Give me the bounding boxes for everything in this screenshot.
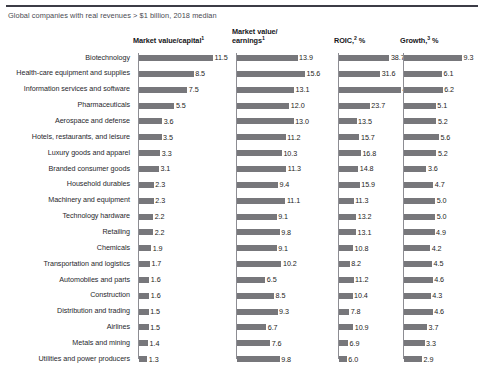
bar-value-label: 12.0 (291, 101, 305, 110)
category-label: Pharmaceuticals (77, 100, 130, 109)
bar-value-label: 3.3 (426, 339, 436, 348)
bar-value-label: 7.5 (189, 85, 199, 94)
exhibit-container: Global companies with real revenues > $1… (0, 0, 484, 375)
bar-value-label: 8.5 (276, 291, 286, 300)
category-label: Information services and software (24, 84, 130, 93)
bar (139, 71, 194, 77)
bar (237, 198, 285, 204)
category-label: Hotels, restaurants, and leisure (32, 132, 130, 141)
bar-value-label: 1.6 (151, 275, 161, 284)
column-header-text: ROIC, (334, 36, 354, 45)
bar (139, 182, 154, 188)
bar-value-label: 4.2 (432, 244, 442, 253)
bar-value-label: 1.5 (150, 307, 160, 316)
bar-value-label: 9.8 (281, 355, 291, 364)
bar (339, 166, 358, 172)
bar (237, 118, 294, 124)
bar-value-label: 9.8 (281, 228, 291, 237)
chart-panel-market-value-earnings: 13.915.613.112.013.011.210.311.39.411.19… (236, 53, 338, 363)
bar (404, 277, 433, 283)
bar (237, 277, 265, 283)
bar (237, 245, 277, 251)
bar (139, 245, 151, 251)
bar-value-label: 10.2 (283, 259, 297, 268)
category-label: Automobiles and parts (59, 275, 130, 284)
bar-value-label: 6.2 (444, 85, 454, 94)
category-label: Airlines (107, 322, 130, 331)
bar-value-label: 5.5 (176, 101, 186, 110)
top-divider-rule (6, 5, 478, 7)
bar (339, 356, 347, 362)
bar-value-label: 11.1 (287, 196, 300, 205)
column-header-roic: ROIC,2 % (334, 37, 365, 46)
bar-value-label: 5.6 (440, 133, 450, 142)
bar-value-label: 10.4 (354, 291, 368, 300)
bar (237, 261, 281, 267)
bar-value-label: 10.9 (355, 323, 369, 332)
bar-value-label: 15.6 (307, 69, 321, 78)
bar (237, 214, 277, 220)
bar-value-label: 13.0 (295, 117, 309, 126)
bar (404, 229, 435, 235)
column-header-text: Market value/capital (133, 36, 201, 45)
column-header-unit: % (430, 36, 438, 45)
category-label: Metals and mining (72, 338, 130, 347)
bar-value-label: 6.9 (349, 339, 359, 348)
bar-value-label: 7.8 (351, 307, 361, 316)
bar-value-label: 3.3 (162, 149, 172, 158)
category-label: Health-care equipment and supplies (16, 68, 130, 77)
bar (404, 293, 431, 299)
category-label: Retailing (102, 227, 130, 236)
bar (339, 118, 357, 124)
category-label: Household durables (67, 179, 130, 188)
bar (139, 324, 149, 330)
bar-value-label: 5.0 (437, 212, 447, 221)
bar (237, 309, 278, 315)
bar (237, 71, 305, 77)
bar (404, 134, 439, 140)
bar (404, 324, 427, 330)
bar (139, 340, 148, 346)
bar-value-label: 8.2 (351, 259, 361, 268)
bar-value-label: 4.5 (434, 259, 444, 268)
bar-value-label: 11.2 (355, 275, 368, 284)
chart-grid: BiotechnologyHealth-care equipment and s… (0, 53, 484, 363)
bar (237, 182, 278, 188)
bar (139, 309, 149, 315)
bar (339, 324, 353, 330)
bar-value-label: 5.2 (438, 149, 448, 158)
bar-value-label: 4.6 (434, 275, 444, 284)
bar (237, 356, 280, 362)
bar (339, 150, 361, 156)
bar (339, 277, 354, 283)
bar-value-label: 3.5 (163, 133, 173, 142)
bar-value-label: 13.2 (358, 212, 372, 221)
bar (339, 71, 380, 77)
bar (139, 55, 213, 61)
bar (404, 71, 442, 77)
bar-value-label: 6.0 (348, 355, 358, 364)
bar-value-label: 4.9 (436, 228, 446, 237)
bar-value-label: 31.6 (382, 69, 396, 78)
bar (139, 356, 147, 362)
bar-value-label: 5.0 (437, 196, 447, 205)
category-label: Luxury goods and apparel (48, 148, 130, 157)
bar (237, 55, 298, 61)
bar (404, 166, 426, 172)
bar (237, 134, 286, 140)
bar-value-label: 2.3 (155, 180, 165, 189)
footnote-marker: 1 (262, 34, 265, 40)
bar-value-label: 7.6 (272, 339, 282, 348)
column-header-unit: % (357, 36, 365, 45)
bar-value-label: 11.5 (215, 53, 228, 62)
bar-value-label: 13.9 (299, 53, 313, 62)
column-header-market-value-earnings: Market value/earnings1 (232, 28, 278, 45)
bar (139, 229, 153, 235)
bar (237, 150, 282, 156)
bar-value-label: 3.6 (164, 117, 174, 126)
bar (139, 214, 153, 220)
bar (404, 261, 432, 267)
exhibit-subtitle: Global companies with real revenues > $1… (8, 11, 217, 20)
bar-value-label: 1.6 (151, 291, 161, 300)
bar (404, 245, 430, 251)
